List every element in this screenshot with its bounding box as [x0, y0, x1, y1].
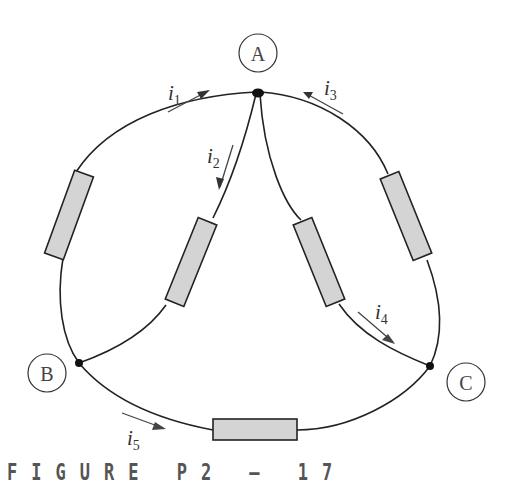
- node-label-c: C: [447, 363, 485, 401]
- svg-text:C: C: [459, 372, 472, 394]
- current-arrow-i1: i1: [168, 81, 210, 112]
- wire-ab-outer-lower: [60, 258, 79, 363]
- wire-ac-inner: [260, 94, 301, 220]
- resistor-ac-outer: [380, 171, 432, 260]
- figure-caption: FIGURE P2 – 17: [7, 458, 346, 485]
- wire-bc-right: [297, 366, 430, 430]
- resistor-ab-outer: [45, 170, 94, 260]
- current-arrow-i5: i5: [122, 413, 166, 453]
- wire-bc-left: [79, 363, 213, 430]
- circuit-diagram: A B C i1 i2 i3 i4 i5: [0, 0, 506, 493]
- node-c-dot: [426, 362, 434, 370]
- current-arrow-i4: i4: [358, 300, 395, 344]
- resistor-ac-inner: [293, 217, 345, 306]
- node-a-dot: [252, 89, 264, 98]
- current-label-i3: i3: [324, 76, 337, 103]
- node-label-b: B: [28, 354, 66, 392]
- current-label-i1: i1: [168, 81, 181, 108]
- wire-ac-outer: [260, 92, 388, 174]
- circuit-figure: A B C i1 i2 i3 i4 i5 FIGURE P2 – 17: [0, 0, 506, 493]
- resistor-bc: [213, 419, 297, 440]
- svg-text:B: B: [40, 363, 53, 385]
- node-b-dot: [75, 359, 83, 367]
- current-label-i5: i5: [127, 426, 140, 453]
- svg-text:A: A: [251, 43, 266, 65]
- current-label-i4: i4: [375, 300, 388, 327]
- current-label-i2: i2: [207, 144, 220, 171]
- node-label-a: A: [239, 34, 277, 72]
- wire-ac-outer-lower: [427, 260, 440, 366]
- resistor-ab-inner: [165, 217, 217, 306]
- wire-ab-inner-lower: [79, 305, 166, 363]
